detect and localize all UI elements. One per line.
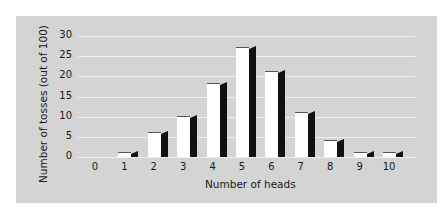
bar-front — [118, 153, 131, 157]
bar — [383, 153, 403, 157]
bar-side — [278, 73, 285, 157]
bar — [118, 153, 138, 157]
bar-side — [220, 85, 227, 157]
y-tick-label: 5 — [52, 130, 72, 141]
x-tick-label: 8 — [320, 161, 340, 172]
x-tick-label: 4 — [203, 161, 223, 172]
x-tick-label: 7 — [291, 161, 311, 172]
bar — [295, 113, 315, 157]
x-tick-label: 2 — [144, 161, 164, 172]
bar-front — [207, 84, 220, 157]
bar-front — [324, 141, 337, 157]
x-tick-label: 3 — [173, 161, 193, 172]
bar-front — [383, 153, 396, 157]
x-tick-label: 1 — [114, 161, 134, 172]
bar — [148, 133, 168, 157]
y-tick-label: 25 — [52, 49, 72, 60]
bar — [207, 84, 227, 157]
gridline — [78, 36, 415, 37]
bar — [177, 117, 197, 157]
x-tick-label: 9 — [350, 161, 370, 172]
bar-front — [265, 72, 278, 157]
y-axis-label: Number of tosses (out of 100) — [37, 25, 49, 183]
x-tick-label: 10 — [379, 161, 399, 172]
bar — [265, 72, 285, 157]
bar — [324, 141, 344, 157]
bar-front — [295, 113, 308, 157]
bar-side — [161, 134, 168, 157]
x-tick-label: 0 — [85, 161, 105, 172]
bar-side — [337, 142, 344, 157]
x-tick-label: 5 — [232, 161, 252, 172]
y-tick-label: 10 — [52, 110, 72, 121]
bar-side — [190, 118, 197, 157]
y-tick-label: 15 — [52, 90, 72, 101]
bar — [236, 48, 256, 157]
bar-side — [396, 154, 403, 157]
x-axis-label: Number of heads — [205, 178, 296, 190]
y-tick-label: 30 — [52, 29, 72, 40]
y-tick-label: 0 — [52, 150, 72, 161]
gridline — [78, 157, 415, 158]
bar-front — [148, 133, 161, 157]
bar-front — [177, 117, 190, 157]
bar-side — [367, 154, 374, 157]
bar-front — [236, 48, 249, 157]
bar-side — [308, 114, 315, 157]
bar-side — [249, 49, 256, 157]
bar-front — [354, 153, 367, 157]
y-tick-label: 20 — [52, 69, 72, 80]
bar-side — [131, 154, 138, 157]
bar — [354, 153, 374, 157]
x-tick-label: 6 — [261, 161, 281, 172]
